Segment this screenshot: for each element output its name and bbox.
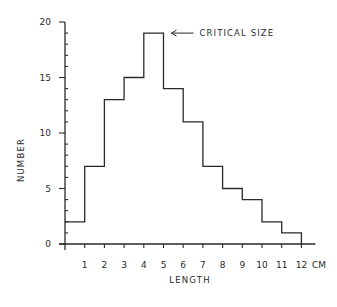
y-tick-label: 5 xyxy=(45,184,51,194)
y-axis: 05101520 xyxy=(40,17,68,250)
x-axis-unit: CM xyxy=(312,260,326,270)
x-axis: 123456789101112 xyxy=(59,244,315,270)
y-tick-label: 20 xyxy=(40,17,52,27)
annotation-text: CRITICAL SIZE xyxy=(200,28,275,38)
x-tick-label: 8 xyxy=(220,260,226,270)
x-tick-label: 1 xyxy=(82,260,88,270)
x-tick-label: 2 xyxy=(102,260,108,270)
x-tick-label: 6 xyxy=(180,260,186,270)
y-tick-label: 15 xyxy=(40,73,51,83)
y-tick-label: 0 xyxy=(45,239,51,249)
x-tick-label: 7 xyxy=(200,260,206,270)
x-tick-label: 9 xyxy=(239,260,245,270)
x-tick-label: 3 xyxy=(121,260,127,270)
x-tick-label: 5 xyxy=(161,260,167,270)
x-tick-label: 10 xyxy=(256,260,268,270)
y-axis-title: NUMBER xyxy=(16,138,26,182)
x-tick-label: 11 xyxy=(276,260,287,270)
histogram-outline xyxy=(65,33,301,244)
histogram-chart: 05101520 123456789101112 NUMBER LENGTH C… xyxy=(0,0,337,307)
y-tick-label: 10 xyxy=(40,128,52,138)
x-tick-label: 4 xyxy=(141,260,147,270)
x-tick-label: 12 xyxy=(296,260,307,270)
critical-size-annotation: CRITICAL SIZE xyxy=(172,28,275,38)
arrow-left-icon xyxy=(172,30,194,36)
x-axis-title: LENGTH xyxy=(169,275,211,285)
